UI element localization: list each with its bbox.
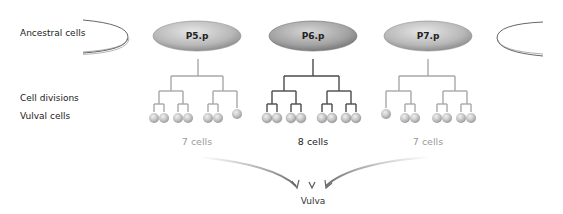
vulval-cells-p7p (381, 109, 476, 123)
lineage-diagram (0, 0, 563, 214)
label-p5p: P5.p (186, 31, 209, 41)
lineage-tree-p6p (267, 59, 356, 112)
arrow-p6p-to-vulva (309, 158, 315, 188)
cell-count-p5p: 7 cells (182, 136, 212, 147)
neighbor-cell-left (83, 20, 129, 55)
label-p7p: P7.p (417, 31, 440, 41)
arrow-p5p-to-vulva (200, 157, 299, 188)
cell-count-p7p: 7 cells (413, 136, 443, 147)
lineage-tree-p7p (386, 59, 471, 112)
arrow-p7p-to-vulva (325, 157, 430, 188)
vulval-cells-p6p (262, 113, 361, 123)
neighbor-cell-right (497, 22, 543, 56)
label-p6p: P6.p (302, 31, 325, 41)
vulva-label: Vulva (301, 196, 326, 206)
cell-count-p6p: 8 cells (298, 136, 328, 147)
lineage-tree-p5p (154, 59, 237, 112)
vulval-cells-p5p (149, 109, 242, 123)
